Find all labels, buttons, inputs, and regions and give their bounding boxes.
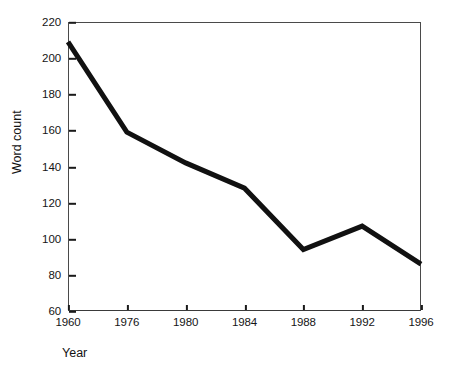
y-axis-tick-label: 100 [42, 233, 61, 245]
y-axis-tick-label: 180 [42, 88, 61, 100]
x-axis-tick [244, 305, 246, 310]
y-axis-tick-label: 220 [42, 16, 61, 28]
x-axis-tick-label: 1996 [408, 316, 433, 328]
x-axis-tick-label: 1960 [55, 316, 80, 328]
chart-figure: Word count 6080100120140160180200220 196… [0, 0, 455, 380]
x-axis-tick-label: 1976 [114, 316, 139, 328]
x-axis-title: Year [62, 346, 87, 360]
y-axis-tick [69, 58, 76, 60]
y-axis-tick-label: 120 [42, 197, 61, 209]
y-axis-tick-label: 80 [48, 269, 61, 281]
y-axis-tick [69, 22, 76, 24]
y-axis-tick [69, 130, 76, 132]
x-axis-tick [68, 305, 70, 310]
y-axis-tick-label: 140 [42, 161, 61, 173]
y-axis-tick-label: 200 [42, 52, 61, 64]
y-axis-tick [69, 202, 76, 204]
y-axis-tick-label: 160 [42, 124, 61, 136]
y-axis-title: Word count [10, 152, 24, 174]
x-axis-tick-label: 1984 [232, 316, 257, 328]
y-axis-tick [69, 275, 76, 277]
x-axis-tick [186, 305, 188, 310]
y-axis-tick [69, 166, 76, 168]
y-axis-tick [69, 311, 76, 313]
y-axis-tick [69, 94, 76, 96]
x-axis-tick [127, 305, 129, 310]
x-axis-tick-label: 1992 [350, 316, 375, 328]
y-axis-tick [69, 239, 76, 241]
x-axis-tick [303, 305, 305, 310]
x-axis-tick-label: 1988 [291, 316, 316, 328]
x-axis-tick-label: 1980 [173, 316, 198, 328]
x-axis-tick [362, 305, 364, 310]
x-axis-tick [421, 305, 423, 310]
plot-area [68, 22, 421, 311]
